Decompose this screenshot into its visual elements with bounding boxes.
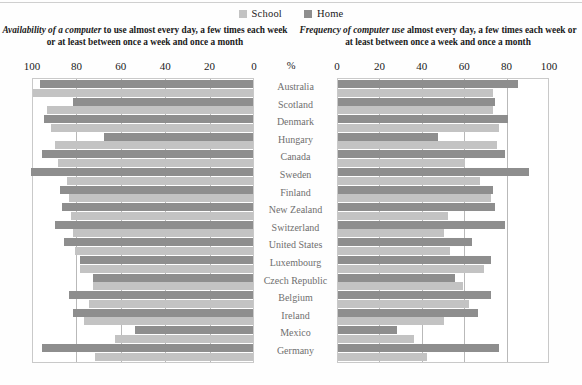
bar-availability-home-ireland	[73, 309, 253, 317]
bar-frequency-home-finland	[338, 186, 493, 194]
bar-availability-home-czech-republic	[93, 274, 253, 282]
bar-frequency-school-finland	[338, 194, 491, 202]
bar-availability-home-mexico	[135, 326, 253, 334]
legend-item-home: Home	[304, 9, 343, 20]
category-label-denmark: Denmark	[256, 116, 335, 127]
bar-availability-school-mexico	[115, 335, 253, 343]
bar-availability-home-united-states	[64, 238, 253, 246]
bar-frequency-school-switzerland	[338, 229, 444, 237]
category-label-canada: Canada	[256, 151, 335, 162]
category-label-ireland: Ireland	[256, 310, 335, 321]
bar-frequency-home-australia	[338, 80, 518, 88]
bar-frequency-home-belgium	[338, 291, 491, 299]
legend-swatch-school	[239, 10, 247, 18]
category-label-luxembourg: Luxembourg	[256, 257, 335, 268]
bar-frequency-home-czech-republic	[338, 274, 455, 282]
bar-availability-school-hungary	[55, 141, 253, 149]
category-label-sweden: Sweden	[256, 169, 335, 180]
category-label-belgium: Belgium	[256, 292, 335, 303]
bar-frequency-school-scotland	[338, 106, 493, 114]
bar-frequency-home-mexico	[338, 326, 397, 334]
bar-availability-school-finland	[69, 194, 253, 202]
bar-availability-home-denmark	[44, 115, 253, 123]
bar-availability-school-scotland	[47, 106, 253, 114]
bar-availability-school-denmark	[51, 124, 253, 132]
axis-tick-right-20: 20	[374, 60, 385, 72]
bar-frequency-home-germany	[338, 344, 499, 352]
chart-page: SchoolHome Availability of a computer to…	[0, 0, 582, 385]
bar-frequency-home-switzerland	[338, 221, 505, 229]
bar-frequency-school-czech-republic	[338, 282, 463, 290]
panel-title-emphasis: Frequency of computer use	[299, 25, 404, 35]
category-label-united-states: United States	[256, 239, 335, 250]
panel-title-left: Availability of a computer to use almost…	[2, 25, 288, 48]
category-label-scotland: Scotland	[256, 99, 335, 110]
bar-availability-school-germany	[95, 353, 253, 361]
bar-availability-home-sweden	[31, 168, 253, 176]
bar-frequency-school-new-zealand	[338, 212, 448, 220]
bar-availability-school-ireland	[84, 317, 253, 325]
axis-ticks-right: 020406080100	[0, 60, 582, 74]
bar-frequency-school-luxembourg	[338, 265, 484, 273]
bar-availability-home-germany	[42, 344, 253, 352]
category-label-australia: Australia	[256, 81, 335, 92]
bar-frequency-school-belgium	[338, 300, 469, 308]
bar-frequency-school-australia	[338, 89, 493, 97]
bar-frequency-school-united-states	[338, 247, 450, 255]
panel-title-right: Frequency of computer use almost every d…	[296, 25, 580, 48]
bar-frequency-school-denmark	[338, 124, 499, 132]
category-label-czech-republic: Czech Republic	[256, 275, 335, 286]
bar-frequency-home-new-zealand	[338, 203, 495, 211]
legend-swatch-home	[304, 10, 312, 18]
axis-tick-right-40: 40	[416, 60, 427, 72]
bar-frequency-school-mexico	[338, 335, 414, 343]
bar-availability-school-switzerland	[73, 229, 253, 237]
bar-availability-school-czech-republic	[93, 282, 253, 290]
bar-frequency-home-ireland	[338, 309, 478, 317]
bar-availability-school-canada	[58, 159, 253, 167]
bar-frequency-home-luxembourg	[338, 256, 491, 264]
bar-frequency-school-ireland	[338, 317, 444, 325]
bar-frequency-home-scotland	[338, 98, 495, 106]
bar-availability-home-canada	[42, 150, 253, 158]
plot-area-frequency	[337, 78, 549, 363]
legend-item-school: School	[239, 9, 282, 20]
bar-frequency-home-denmark	[338, 115, 508, 123]
legend-label-school: School	[252, 9, 282, 20]
axis-tick-right-100: 100	[541, 60, 558, 72]
bar-frequency-home-canada	[338, 150, 505, 158]
legend-label-home: Home	[317, 9, 343, 20]
category-label-finland: Finland	[256, 187, 335, 198]
axis-tick-right-60: 60	[459, 60, 470, 72]
bar-frequency-school-sweden	[338, 177, 480, 185]
bar-availability-school-australia	[33, 89, 253, 97]
bar-availability-home-switzerland	[55, 221, 253, 229]
chart-titles: Availability of a computer to use almost…	[0, 25, 582, 53]
bar-availability-school-belgium	[89, 300, 253, 308]
panel-title-emphasis: Availability of a computer	[3, 25, 102, 35]
bar-availability-home-australia	[40, 80, 253, 88]
top-divider	[0, 2, 582, 3]
category-label-switzerland: Switzerland	[256, 222, 335, 233]
bar-availability-home-hungary	[104, 133, 253, 141]
category-label-germany: Germany	[256, 345, 335, 356]
chart-legend: SchoolHome	[0, 9, 582, 20]
axis-tick-right-80: 80	[501, 60, 512, 72]
axis-tick-right-0: 0	[334, 60, 340, 72]
bar-frequency-school-canada	[338, 159, 465, 167]
bar-frequency-home-sweden	[338, 168, 529, 176]
category-label-mexico: Mexico	[256, 327, 335, 338]
bar-frequency-home-united-states	[338, 238, 472, 246]
bar-frequency-school-hungary	[338, 141, 497, 149]
bar-availability-school-sweden	[67, 177, 253, 185]
bar-availability-home-belgium	[69, 291, 253, 299]
bar-frequency-home-hungary	[338, 133, 438, 141]
plot-area-availability	[32, 78, 254, 363]
bar-availability-home-luxembourg	[80, 256, 253, 264]
category-label-hungary: Hungary	[256, 134, 335, 145]
bar-availability-school-luxembourg	[80, 265, 253, 273]
category-labels: AustraliaScotlandDenmarkHungaryCanadaSwe…	[256, 78, 335, 363]
bar-availability-home-scotland	[73, 98, 253, 106]
bar-availability-school-united-states	[75, 247, 253, 255]
bar-availability-school-new-zealand	[71, 212, 253, 220]
